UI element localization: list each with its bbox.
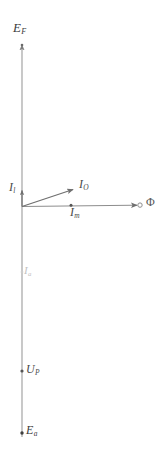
induced-emf-point-marker [20,431,23,434]
label-output-current: IO [79,178,88,190]
output-current-phasor-line [22,190,73,207]
label-top-axis-symbol: E [13,20,21,35]
label-output-current-subscript: O [83,183,88,192]
label-magnetizing-current-subscript: m [74,211,79,220]
phasor-diagram: EF Il IO Im Φ Ia UP Ea [0,0,158,453]
phasor-diagram-canvas [0,0,158,453]
label-terminal-voltage-symbol: U [26,362,35,376]
label-bottom-axis-subscript: a [34,429,38,438]
label-magnetizing-current: Im [70,206,79,218]
terminal-voltage-point-marker [20,369,23,372]
top-axis-point-marker [21,44,24,47]
label-terminal-voltage: UP [26,363,39,375]
label-bottom-axis: Ea [26,424,37,436]
label-terminal-voltage-subscript: P [35,368,40,377]
armature-current-point-marker [21,271,24,274]
flux-phasor-line [22,205,137,206]
label-armature-current: Ia [24,265,31,276]
label-bottom-axis-symbol: E [26,423,33,437]
label-top-axis: EF [13,21,26,34]
label-loss-current: Il [9,181,15,193]
label-armature-current-subscript: a [28,270,31,277]
label-flux: Φ [146,196,155,208]
label-top-axis-subscript: F [21,27,26,36]
flux-tip-marker [138,203,142,207]
label-flux-symbol: Φ [146,195,155,209]
